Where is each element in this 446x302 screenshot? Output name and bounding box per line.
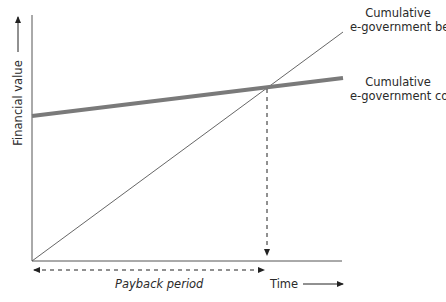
y-axis-label: Financial value bbox=[11, 53, 25, 153]
x-axis-label: Time bbox=[270, 277, 298, 291]
benefits-label-line2: e-government benefits bbox=[350, 20, 446, 34]
costs-label-line1: Cumulative bbox=[350, 75, 446, 89]
costs-line bbox=[32, 78, 343, 116]
payback-period-label: Payback period bbox=[115, 277, 203, 291]
benefits-line bbox=[32, 32, 343, 261]
benefits-label-line1: Cumulative bbox=[350, 6, 446, 20]
diagram-canvas bbox=[0, 0, 446, 302]
benefits-label: Cumulative e-government benefits bbox=[350, 6, 446, 34]
costs-label: Cumulative e-government costs bbox=[350, 75, 446, 103]
costs-label-line2: e-government costs bbox=[350, 89, 446, 103]
